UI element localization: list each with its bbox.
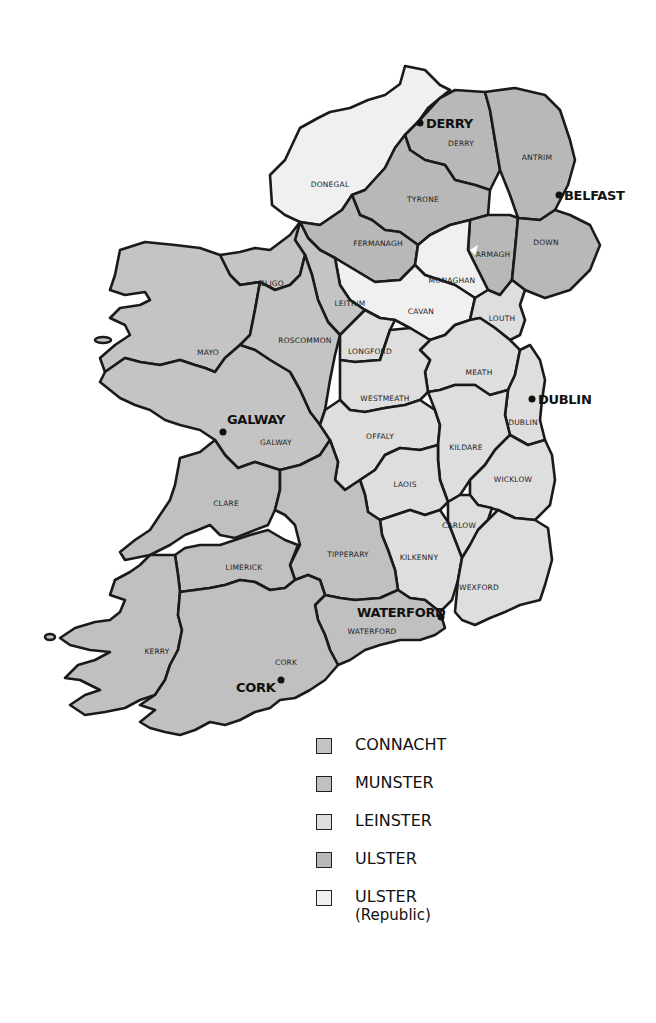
- label-meath: MEATH: [466, 368, 493, 377]
- legend-label-main: ULSTER: [355, 887, 417, 906]
- label-tipperary: TIPPERARY: [326, 550, 369, 559]
- label-cavan: CAVAN: [408, 307, 434, 316]
- city-dot-cork: [278, 677, 285, 684]
- city-dot-dublin: [529, 396, 536, 403]
- label-armagh: ARMAGH: [476, 250, 510, 259]
- legend-label: ULSTER: [355, 850, 417, 868]
- label-leitrim: LEITRIM: [334, 299, 365, 308]
- city-dot-derry: [417, 120, 424, 127]
- city-label-cork: CORK: [236, 680, 277, 695]
- swatch-connacht: [316, 738, 332, 754]
- label-antrim: ANTRIM: [522, 153, 552, 162]
- label-roscommon: ROSCOMMON: [278, 336, 331, 345]
- label-dublin: DUBLIN: [508, 418, 538, 427]
- city-label-waterford: WATERFORD: [357, 605, 446, 620]
- legend-item-munster: MUNSTER: [316, 774, 446, 812]
- label-westmeath: WESTMEATH: [360, 394, 409, 403]
- label-waterford: WATERFORD: [347, 627, 396, 636]
- label-carlow: CARLOW: [442, 521, 476, 530]
- swatch-munster: [316, 776, 332, 792]
- city-label-galway: GALWAY: [227, 412, 286, 427]
- label-cork: CORK: [275, 658, 298, 667]
- legend-item-connacht: CONNACHT: [316, 736, 446, 774]
- label-clare: CLARE: [213, 499, 239, 508]
- label-galway: GALWAY: [260, 438, 292, 447]
- city-label-derry: DERRY: [426, 116, 474, 131]
- label-mayo: MAYO: [197, 348, 219, 357]
- legend-item-ulster: ULSTER: [316, 850, 446, 888]
- label-kerry: KERRY: [144, 647, 169, 656]
- label-wexford: WEXFORD: [459, 583, 499, 592]
- swatch-ulster: [316, 852, 332, 868]
- legend-item-ulster-republic: ULSTER (Republic): [316, 888, 446, 926]
- island-blasket: [45, 634, 55, 640]
- label-tyrone: TYRONE: [406, 195, 439, 204]
- legend: CONNACHT MUNSTER LEINSTER ULSTER ULSTER …: [316, 736, 446, 926]
- legend-label-sub: (Republic): [355, 906, 431, 924]
- label-kilkenny: KILKENNY: [400, 553, 439, 562]
- legend-item-leinster: LEINSTER: [316, 812, 446, 850]
- label-limerick: LIMERICK: [226, 563, 264, 572]
- city-dot-belfast: [556, 192, 563, 199]
- legend-label: MUNSTER: [355, 774, 434, 792]
- legend-label: ULSTER (Republic): [355, 888, 431, 924]
- island-achill: [95, 337, 111, 343]
- label-sligo: SLIGO: [260, 279, 284, 288]
- label-down: DOWN: [533, 238, 559, 247]
- label-longford: LONGFORD: [348, 347, 392, 356]
- legend-label: CONNACHT: [355, 736, 446, 754]
- label-derry: DERRY: [448, 139, 474, 148]
- label-wicklow: WICKLOW: [494, 475, 533, 484]
- city-label-dublin: DUBLIN: [538, 392, 591, 407]
- label-kildare: KILDARE: [449, 443, 482, 452]
- label-fermanagh: FERMANAGH: [353, 239, 403, 248]
- legend-label: LEINSTER: [355, 812, 432, 830]
- label-laois: LAOIS: [393, 480, 416, 489]
- swatch-leinster: [316, 814, 332, 830]
- label-offaly: OFFALY: [366, 432, 394, 441]
- city-dot-galway: [220, 429, 227, 436]
- label-donegal: DONEGAL: [311, 180, 350, 189]
- swatch-ulster-republic: [316, 890, 332, 906]
- county-down: [512, 210, 600, 298]
- label-monaghan: MONAGHAN: [429, 276, 476, 285]
- label-louth: LOUTH: [489, 314, 516, 323]
- city-label-belfast: BELFAST: [564, 188, 625, 203]
